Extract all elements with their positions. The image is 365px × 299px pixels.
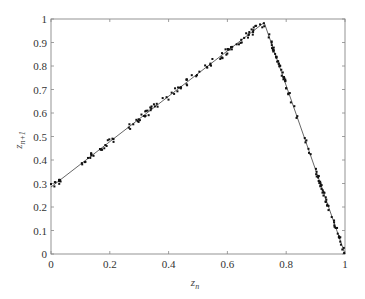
data-point [334,226,336,228]
data-point [259,23,261,25]
plot-axes [51,19,345,254]
data-point [90,152,92,154]
data-point [154,105,156,107]
x-tick-label: 0.6 [221,258,235,270]
data-point [280,69,282,71]
data-point [252,34,254,36]
data-point [84,161,86,163]
data-point [225,54,227,56]
data-point [58,180,60,182]
data-point [328,209,330,211]
data-point [318,175,320,177]
data-point [162,97,164,99]
data-point [174,87,176,89]
data-point [325,201,327,203]
data-point [343,252,345,254]
data-point [147,110,149,112]
y-tick-label: 0.9 [33,37,47,49]
data-point [333,219,335,221]
data-point [271,42,273,44]
data-point [333,221,335,223]
y-tick-label: 0.5 [33,131,47,143]
x-tick-label: 1 [342,258,348,270]
data-point [176,90,178,92]
axis-ticks: 00.20.40.60.8100.10.20.30.40.50.60.70.80… [33,13,348,270]
data-point [148,114,150,116]
data-point [339,241,341,243]
data-point [220,56,222,58]
data-point [221,52,223,54]
data-point [87,157,89,159]
x-tick-label: 0.4 [162,258,176,270]
data-point [186,84,188,86]
data-point [153,103,155,105]
data-point [322,195,324,197]
data-point [263,22,265,24]
data-point [58,183,60,185]
data-point [129,128,131,130]
data-point [128,123,130,125]
data-point [326,205,328,207]
data-point [195,75,197,77]
data-point [278,63,280,65]
data-point [268,33,270,35]
y-tick-label: 0 [42,248,48,260]
data-point [315,168,317,170]
data-point [283,76,285,78]
plot-frame [51,19,345,254]
data-point [89,157,91,159]
data-point [316,171,318,173]
data-point [231,48,233,50]
data-point [145,115,147,117]
data-point [272,49,274,51]
y-tick-label: 0.7 [33,84,47,96]
data-point [206,66,208,68]
data-point [139,119,141,121]
data-point [318,180,320,182]
data-point [338,235,340,237]
data-point [191,74,193,76]
data-point [54,181,56,183]
data-point [50,183,52,185]
data-point [248,34,250,36]
data-point [252,29,254,31]
data-point [225,48,227,50]
data-point [243,37,245,39]
data-point [254,25,256,27]
x-tick-label: 0 [48,258,54,270]
data-point [173,93,175,95]
data-point [323,192,325,194]
data-point [282,71,284,73]
data-point [230,46,232,48]
data-point [321,192,323,194]
data-point [107,139,109,141]
data-point [275,56,277,58]
data-point [282,78,284,80]
data-point [321,188,323,190]
data-point [304,137,306,139]
data-point [285,87,287,89]
data-point [304,141,306,143]
data-point [238,43,240,45]
y-tick-label: 0.4 [33,154,47,166]
y-tick-label: 0.6 [33,107,47,119]
data-point [307,148,309,150]
data-point [90,154,92,156]
data-point [287,93,289,95]
data-point [53,185,55,187]
data-point [284,80,286,82]
data-point [166,96,168,98]
data-point [296,115,298,117]
x-tick-label: 0.2 [103,258,117,270]
y-axis-label: zn+1 [12,131,27,150]
data-point [150,109,152,111]
y-tick-label: 0.8 [33,60,47,72]
data-point [209,63,211,65]
fit-line [51,23,345,254]
data-point [211,58,213,60]
x-tick-label: 0.8 [279,258,293,270]
data-point [321,184,323,186]
data-point [325,196,327,198]
data-point [111,138,113,140]
x-axis-label: zn [190,276,199,291]
